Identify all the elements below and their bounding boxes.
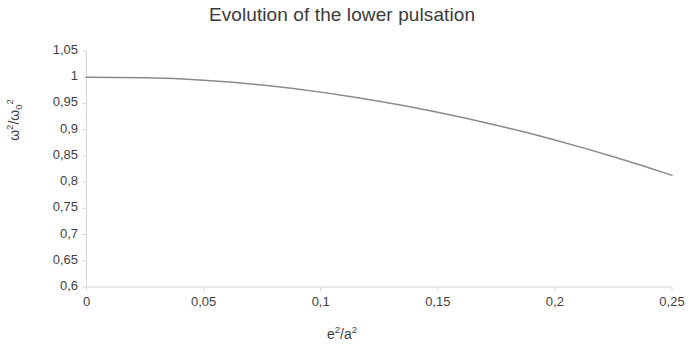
y-tick-label: 1	[20, 68, 78, 83]
y-tick-marks	[83, 51, 87, 287]
y-tick-label: 0,7	[20, 226, 78, 241]
y-tick-label: 0,95	[20, 94, 78, 109]
y-tick-label: 0,9	[20, 121, 78, 136]
x-tick-label: 0,1	[281, 294, 361, 309]
y-tick-label: 0,85	[20, 147, 78, 162]
x-tick-marks	[87, 287, 673, 291]
y-tick-label: 0,8	[20, 173, 78, 188]
x-tick-label: 0,25	[632, 294, 689, 309]
y-tick-label: 0,65	[20, 252, 78, 267]
x-tick-label: 0	[47, 294, 127, 309]
data-series-line	[87, 77, 673, 175]
axis-lines	[87, 51, 673, 287]
x-tick-label: 0,05	[164, 294, 244, 309]
y-tick-label: 0,75	[20, 199, 78, 214]
y-tick-label: 1,05	[20, 42, 78, 57]
x-tick-label: 0,15	[398, 294, 478, 309]
y-tick-label: 0,6	[20, 278, 78, 293]
x-tick-label: 0,2	[515, 294, 595, 309]
